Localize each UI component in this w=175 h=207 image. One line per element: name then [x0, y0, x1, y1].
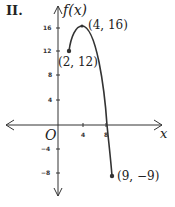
y-axis-label: f(x) — [63, 2, 87, 18]
x-axis-label: x — [160, 126, 167, 141]
y-tick-12: 12 — [43, 47, 51, 54]
point-label-4-16: (4, 16) — [88, 18, 128, 32]
point-2-12 — [67, 49, 71, 53]
y-tick-neg4: −4 — [41, 145, 50, 152]
problem-label: II. — [6, 3, 23, 18]
x-tick-8: 8 — [104, 131, 108, 138]
y-tick-neg8: −8 — [41, 169, 50, 176]
point-4-16 — [80, 24, 83, 27]
y-tick-4: 4 — [48, 96, 52, 103]
y-tick-8: 8 — [48, 71, 52, 78]
point-9-neg9 — [110, 174, 114, 178]
function-curve — [69, 26, 112, 176]
x-tick-4: 4 — [81, 131, 85, 138]
y-tick-16: 16 — [43, 24, 51, 31]
point-label-2-12: (2, 12) — [58, 55, 98, 69]
origin-label: O — [45, 127, 56, 143]
point-label-9-neg9: (9, −9) — [117, 169, 159, 183]
